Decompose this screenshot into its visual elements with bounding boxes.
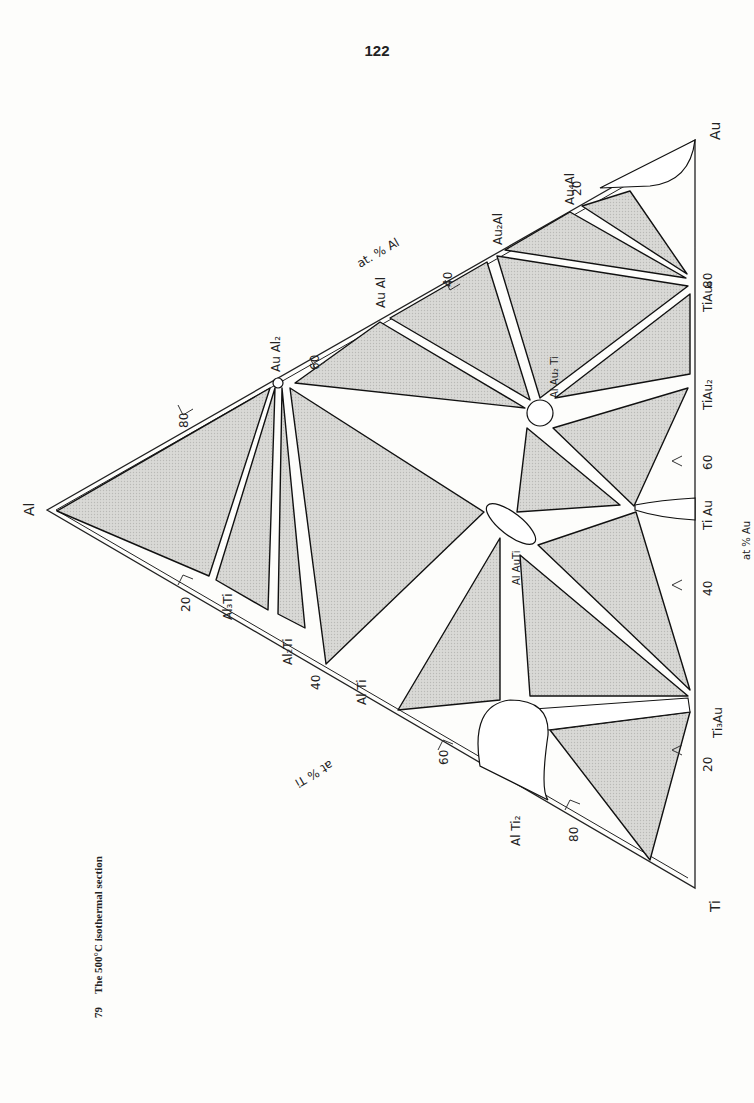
label-alti2: Al Ti₂ bbox=[509, 815, 523, 846]
label-alau2ti: Al Au₂ Ti bbox=[549, 356, 560, 398]
axis-label-at-ti: at % Ti bbox=[293, 757, 336, 790]
ternary-phase-diagram: Al Au Ti Au₄Al Au₂Al Au Al Au Al₂ at. % … bbox=[0, 0, 754, 1103]
svg-text:60: 60 bbox=[701, 455, 715, 470]
svg-text:20: 20 bbox=[570, 181, 584, 196]
label-al2ti: Al₂Ti bbox=[281, 638, 295, 665]
label-au2al: Au₂Al bbox=[491, 213, 505, 245]
label-alauti: Al AuTi bbox=[511, 550, 522, 585]
svg-text:40: 40 bbox=[309, 675, 323, 690]
alti-phase-region bbox=[478, 700, 548, 800]
label-ti3au: Ti₃Au bbox=[711, 707, 725, 739]
svg-text:20: 20 bbox=[179, 597, 193, 612]
label-tiau: Ti Au bbox=[701, 500, 715, 531]
axis-label-at-al: at. % Al bbox=[355, 235, 402, 270]
svg-text:80: 80 bbox=[177, 413, 191, 428]
label-alti: Al Ti bbox=[355, 679, 369, 705]
svg-text:60: 60 bbox=[308, 355, 322, 370]
alau2ti-phase-region bbox=[527, 400, 553, 426]
label-aual: Au Al bbox=[374, 277, 388, 308]
aual2-phase-point bbox=[273, 378, 283, 388]
tiau-phase-region bbox=[635, 498, 695, 520]
figure-caption: The 500°C isothermal section bbox=[92, 856, 104, 994]
label-al3ti: Al₃Ti bbox=[221, 593, 235, 620]
corner-label-au: Au bbox=[707, 122, 723, 140]
svg-text:80: 80 bbox=[701, 273, 715, 288]
axis-label-at-au: at % Au bbox=[741, 521, 752, 560]
svg-text:20: 20 bbox=[701, 757, 715, 772]
svg-text:40: 40 bbox=[701, 581, 715, 596]
au-solid-solution-region bbox=[600, 140, 695, 188]
svg-text:60: 60 bbox=[437, 750, 451, 765]
svg-text:40: 40 bbox=[441, 272, 455, 287]
corner-label-al: Al bbox=[21, 503, 37, 516]
corner-label-ti: Ti bbox=[707, 900, 723, 913]
figure-number: 79 bbox=[92, 1007, 104, 1019]
svg-text:80: 80 bbox=[567, 827, 581, 842]
label-tiau2: TiAu₂ bbox=[701, 379, 715, 411]
label-aual2: Au Al₂ bbox=[269, 336, 283, 372]
